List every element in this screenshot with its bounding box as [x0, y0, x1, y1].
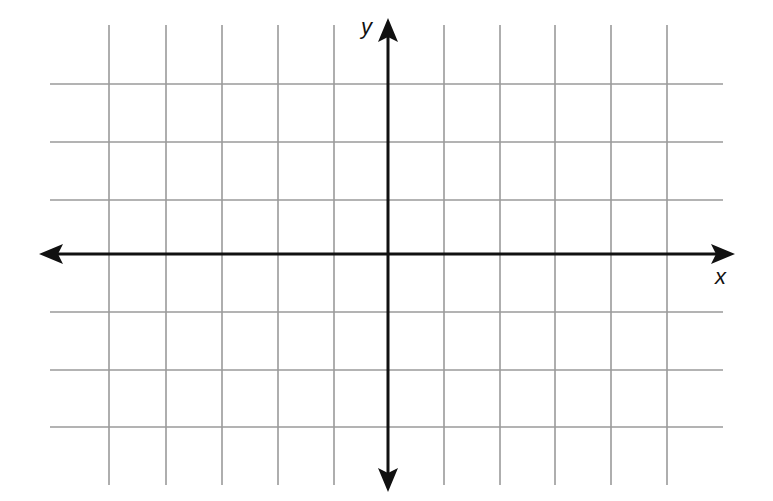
coordinate-plane [0, 0, 773, 501]
x-axis-label: x [715, 266, 726, 288]
y-axis-label: y [361, 16, 372, 38]
